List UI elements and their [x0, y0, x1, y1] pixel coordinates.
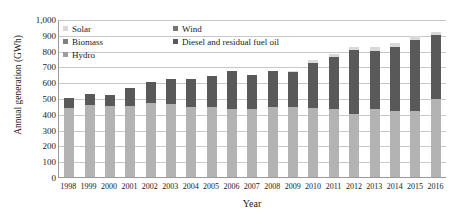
- x-tick-label: 2015: [405, 180, 425, 194]
- legend-item-diesel: Diesel and residual fuel oil: [173, 37, 279, 47]
- legend-marker-hydro: [63, 52, 68, 57]
- bar-segment: [288, 107, 298, 177]
- bar-2015: [410, 20, 420, 177]
- x-axis-tick-labels: 1998199920002001200220032004200520062007…: [58, 180, 446, 194]
- legend-row: Hydro: [63, 48, 363, 61]
- plot-area: Solar Wind Biomass Diesel and residual f…: [58, 20, 446, 178]
- bar-segment: [410, 111, 420, 177]
- x-tick-label: 2007: [242, 180, 262, 194]
- x-tick-label: 2008: [262, 180, 282, 194]
- bar-segment: [349, 114, 359, 177]
- bar-segment: [370, 109, 380, 177]
- bar-2016: [431, 20, 441, 177]
- bar-segment: [308, 108, 318, 177]
- bar-2014: [390, 20, 400, 177]
- x-tick-label: 2010: [303, 180, 323, 194]
- legend-marker-biomass: [63, 39, 68, 44]
- y-tick-label: 1,000: [36, 16, 56, 25]
- x-axis-title: Year: [58, 198, 446, 209]
- legend-marker-diesel: [173, 39, 178, 44]
- x-tick-label: 2009: [283, 180, 303, 194]
- bar-segment: [207, 107, 217, 177]
- x-tick-label: 2001: [119, 180, 139, 194]
- y-tick-label: 600: [43, 79, 57, 88]
- legend-label-biomass: Biomass: [72, 37, 103, 47]
- chart-figure: Annual generation (GWh) 1,00090080070060…: [0, 0, 451, 223]
- y-axis-tick-labels: 1,0009008007006005004003002001000: [22, 14, 56, 184]
- x-tick-label: 2013: [364, 180, 384, 194]
- legend-label-wind: Wind: [182, 24, 202, 34]
- chart-legend: Solar Wind Biomass Diesel and residual f…: [63, 22, 363, 61]
- bar-segment: [227, 109, 237, 177]
- y-tick-label: 500: [43, 95, 57, 104]
- bar-segment: [288, 72, 298, 107]
- bar-segment: [64, 98, 74, 108]
- bar-segment: [268, 71, 278, 107]
- bar-segment: [166, 104, 176, 177]
- x-tick-label: 2011: [323, 180, 343, 194]
- x-tick-label: 2012: [344, 180, 364, 194]
- bar-segment: [207, 76, 217, 108]
- bar-segment: [308, 63, 318, 109]
- bar-2013: [370, 20, 380, 177]
- x-tick-label: 2003: [160, 180, 180, 194]
- x-tick-label: 2006: [221, 180, 241, 194]
- bar-segment: [186, 107, 196, 177]
- y-tick-label: 100: [43, 158, 57, 167]
- bar-segment: [410, 40, 420, 111]
- x-tick-label: 2004: [181, 180, 201, 194]
- x-tick-label: 2000: [99, 180, 119, 194]
- legend-label-hydro: Hydro: [72, 50, 95, 60]
- y-tick-label: 200: [43, 142, 57, 151]
- y-tick-label: 700: [43, 63, 57, 72]
- legend-marker-wind: [173, 26, 178, 31]
- bar-segment: [64, 108, 74, 177]
- x-tick-label: 1999: [79, 180, 99, 194]
- legend-item-solar: Solar: [63, 24, 173, 34]
- bar-segment: [390, 47, 400, 110]
- bar-segment: [431, 99, 441, 177]
- bar-segment: [329, 57, 339, 109]
- legend-row: Biomass Diesel and residual fuel oil: [63, 35, 363, 48]
- legend-item-wind: Wind: [173, 24, 202, 34]
- bar-segment: [431, 35, 441, 99]
- legend-label-diesel: Diesel and residual fuel oil: [182, 37, 279, 47]
- legend-item-hydro: Hydro: [63, 50, 173, 60]
- legend-label-solar: Solar: [72, 24, 91, 34]
- y-tick-label: 900: [43, 31, 57, 40]
- x-tick-label: 2016: [426, 180, 446, 194]
- bar-segment: [247, 75, 257, 108]
- bar-segment: [247, 109, 257, 177]
- bar-segment: [125, 88, 135, 106]
- bar-segment: [186, 79, 196, 107]
- legend-row: Solar Wind: [63, 22, 363, 35]
- legend-item-biomass: Biomass: [63, 37, 173, 47]
- y-tick-label: 300: [43, 126, 57, 135]
- bar-segment: [85, 94, 95, 105]
- y-tick-label: 800: [43, 47, 57, 56]
- bar-segment: [227, 71, 237, 109]
- bar-segment: [146, 82, 156, 103]
- y-tick-label: 400: [43, 110, 57, 119]
- bar-segment: [268, 107, 278, 177]
- bar-segment: [166, 79, 176, 103]
- x-tick-label: 2014: [385, 180, 405, 194]
- x-tick-label: 2005: [201, 180, 221, 194]
- x-tick-label: 1998: [58, 180, 78, 194]
- y-tick-label: 0: [52, 174, 57, 183]
- bar-segment: [329, 109, 339, 177]
- bar-segment: [390, 111, 400, 177]
- bar-segment: [105, 106, 115, 177]
- bar-segment: [370, 51, 380, 109]
- legend-marker-solar: [63, 26, 68, 31]
- x-tick-label: 2002: [140, 180, 160, 194]
- bar-segment: [105, 95, 115, 106]
- bar-segment: [85, 105, 95, 177]
- bar-segment: [146, 103, 156, 177]
- bar-segment: [125, 106, 135, 177]
